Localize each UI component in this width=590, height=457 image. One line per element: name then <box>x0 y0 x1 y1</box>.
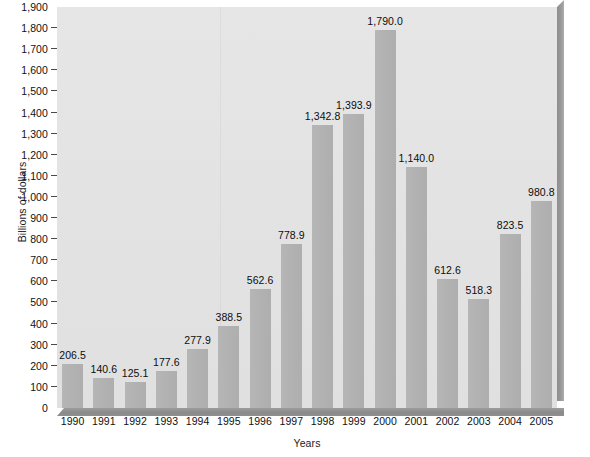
bar <box>187 349 208 408</box>
bar-value-label: 562.6 <box>235 274 285 286</box>
bar <box>437 279 458 408</box>
y-axis-tick-label: 700 <box>30 253 48 267</box>
y-axis-tick-label: 800 <box>30 232 48 246</box>
y-axis-tick-label: 1,000 <box>21 190 48 204</box>
bar-chart: Billions of dollars 1,9001,8001,7001,600… <box>0 0 590 457</box>
bar-value-label: 980.8 <box>516 186 566 198</box>
bar-value-label: 1,790.0 <box>360 15 410 27</box>
bar <box>218 326 239 408</box>
bar <box>125 382 146 408</box>
y-axis-tick-label: 1,600 <box>21 63 48 77</box>
bar-value-label: 125.1 <box>110 367 160 379</box>
bar-value-label: 612.6 <box>423 264 473 276</box>
y-axis-tick-label: 1,400 <box>21 106 48 120</box>
bar <box>343 114 364 408</box>
bar <box>250 289 271 408</box>
y-axis-tick-label: 1,700 <box>21 42 48 56</box>
y-axis-ticks: 1,9001,8001,7001,6001,5001,4001,3001,200… <box>0 0 57 457</box>
y-axis-tick-label: 900 <box>30 211 48 225</box>
y-axis-tick-label: 200 <box>30 359 48 373</box>
y-axis-tick-label: 400 <box>30 317 48 331</box>
y-axis-tick-label: 600 <box>30 274 48 288</box>
x-axis-tick-label: 2005 <box>521 415 561 427</box>
bar <box>281 244 302 408</box>
bar <box>375 30 396 408</box>
y-axis-tick-label: 500 <box>30 295 48 309</box>
y-axis-tick-label: 300 <box>30 338 48 352</box>
x-axis-title: Years <box>57 437 557 449</box>
plot-right-3d-edge <box>557 0 564 401</box>
y-axis-tick-label: 1,500 <box>21 84 48 98</box>
bar-value-label: 1,342.8 <box>298 110 348 122</box>
bar <box>156 371 177 408</box>
bar <box>406 167 427 408</box>
bar-value-label: 778.9 <box>266 229 316 241</box>
y-axis-tick-label: 1,100 <box>21 169 48 183</box>
bar-value-label: 1,140.0 <box>391 152 441 164</box>
bar <box>93 378 114 408</box>
y-axis-tick-label: 100 <box>30 380 48 394</box>
bar <box>500 234 521 408</box>
y-axis-tick-label: 1,800 <box>21 21 48 35</box>
y-axis-tick-label: 1,900 <box>21 0 48 14</box>
bar-value-label: 277.9 <box>173 334 223 346</box>
y-axis-tick-label: 1,300 <box>21 127 48 141</box>
plot-area: 206.5140.6125.1177.6277.9388.5562.6778.9… <box>57 7 557 408</box>
bar-series: 206.5140.6125.1177.6277.9388.5562.6778.9… <box>57 7 557 408</box>
bar <box>468 299 489 408</box>
bar-value-label: 823.5 <box>485 219 535 231</box>
bar <box>312 125 333 408</box>
y-axis-tick-label: 0 <box>42 401 48 415</box>
bar-value-label: 388.5 <box>204 311 254 323</box>
bar-value-label: 206.5 <box>48 349 98 361</box>
x-axis-ticks: 1990199119921993199419951996199719981999… <box>57 415 557 431</box>
bar-value-label: 1,393.9 <box>329 99 379 111</box>
y-axis-tick-label: 1,200 <box>21 148 48 162</box>
bar-value-label: 518.3 <box>454 284 504 296</box>
bar-value-label: 177.6 <box>141 356 191 368</box>
bar <box>531 201 552 408</box>
